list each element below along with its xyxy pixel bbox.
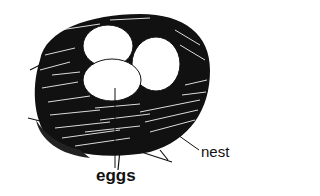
- nest-leader-line: [175, 133, 199, 150]
- nest-label: nest: [201, 144, 229, 159]
- eggs-label: eggs: [96, 168, 136, 183]
